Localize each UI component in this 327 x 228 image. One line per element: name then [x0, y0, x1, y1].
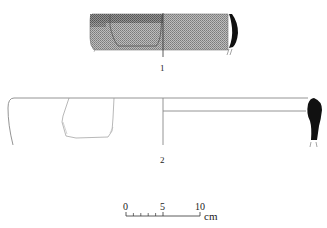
vessel-1-section-profile — [229, 14, 238, 48]
vessel-2-rim-line — [8, 98, 308, 145]
scale-unit: cm — [204, 211, 217, 221]
scale-label-0: 0 — [123, 202, 128, 212]
vessel-1-top-band — [90, 14, 163, 23]
scale-bar — [126, 212, 200, 216]
pottery-drawing — [0, 0, 327, 228]
vessel-2-number: 2 — [160, 155, 165, 165]
vessel-2-drawing — [8, 98, 322, 147]
vessel-2-section-profile — [307, 98, 322, 140]
vessel-1-drawing — [90, 13, 238, 57]
scale-label-5: 5 — [160, 202, 165, 212]
vessel-2-sherd-outline — [62, 98, 114, 138]
vessel-1-number: 1 — [160, 63, 165, 73]
